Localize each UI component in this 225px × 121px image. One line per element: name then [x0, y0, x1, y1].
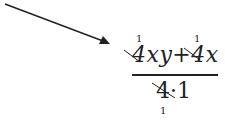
numerator-term1-vars: xy [147, 42, 173, 67]
fraction-bar [132, 74, 218, 76]
denominator-dot: · [170, 78, 177, 103]
pointer-arrow-icon [5, 4, 110, 44]
denominator-left: 4 [156, 78, 170, 103]
denominator-right: 1 [177, 78, 191, 103]
cancel-mark-denominator: 1 [160, 106, 166, 116]
denominator: 4·1 [156, 80, 191, 102]
numerator-term1-coef: 4 [132, 42, 147, 67]
numerator-term2-coef: 4 [191, 42, 206, 67]
numerator: 4xy+4x [132, 44, 219, 66]
numerator-term2-vars: x [206, 42, 219, 67]
numerator-operator: + [172, 42, 191, 67]
